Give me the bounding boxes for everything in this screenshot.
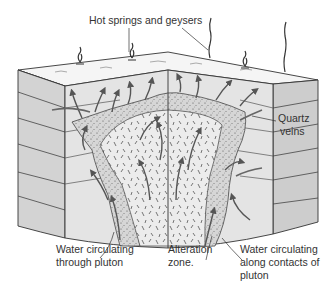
label-hot-springs: Hot springs and geysers: [89, 14, 202, 27]
label-alteration-2: zone.: [168, 256, 194, 269]
left-strata-face: [18, 70, 65, 238]
right-strata-face: [273, 80, 318, 234]
label-water-contacts-3: pluton: [240, 269, 269, 282]
label-quartz-veins-2: veins: [280, 125, 305, 138]
label-water-pluton-2: through pluton: [56, 256, 123, 269]
label-alteration-1: Alteration: [168, 243, 212, 256]
label-water-contacts-2: along contacts of: [240, 256, 319, 269]
label-water-contacts-1: Water circulating: [240, 243, 318, 256]
label-water-pluton-1: Water circulating: [56, 243, 134, 256]
label-quartz-veins-1: Quartz: [278, 112, 310, 125]
